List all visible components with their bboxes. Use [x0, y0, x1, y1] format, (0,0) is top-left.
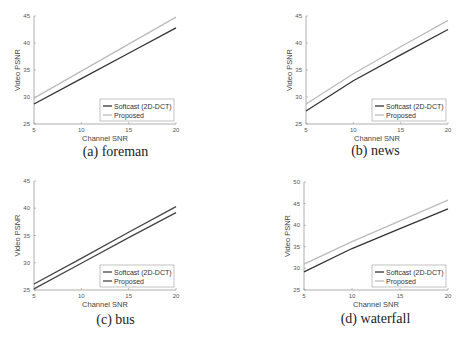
- chart-waterfall: 5101520253035404550Channel SNRVideo PSNR…: [231, 170, 462, 341]
- y-tick-label: 30: [293, 265, 300, 271]
- y-tick-label: 25: [23, 287, 30, 293]
- y-tick-label: 35: [295, 67, 302, 73]
- caption-news: (b) news: [260, 143, 462, 159]
- series-line: [34, 17, 176, 98]
- legend: Softcast (2D-DCT)Proposed: [100, 265, 174, 287]
- caption-waterfall: (d) waterfall: [260, 311, 462, 327]
- x-tick-label: 10: [350, 127, 357, 133]
- y-tick-label: 25: [293, 287, 300, 293]
- y-tick-label: 40: [23, 205, 30, 211]
- plot-bus: 51015202530354045Channel SNRVideo PSNRSo…: [0, 170, 231, 315]
- legend-label: Proposed: [114, 112, 144, 120]
- x-tick-label: 20: [173, 293, 180, 299]
- x-tick-label: 5: [32, 127, 36, 133]
- y-tick-label: 40: [23, 40, 30, 46]
- legend-label: Proposed: [386, 112, 416, 120]
- y-tick-label: 35: [293, 244, 300, 250]
- legend-label: Softcast (2D-DCT): [386, 103, 444, 111]
- x-tick-label: 20: [445, 293, 452, 299]
- y-tick-label: 25: [23, 121, 30, 127]
- y-tick-label: 45: [293, 201, 300, 207]
- y-tick-label: 30: [295, 94, 302, 100]
- x-axis-label: Channel SNR: [354, 134, 400, 143]
- legend-label: Softcast (2D-DCT): [114, 103, 172, 111]
- chart-news: 51015202530354045Channel SNRVideo PSNRSo…: [231, 0, 462, 170]
- x-tick-label: 5: [304, 127, 308, 133]
- y-tick-label: 30: [23, 260, 30, 266]
- legend-label: Proposed: [114, 278, 144, 286]
- legend-label: Softcast (2D-DCT): [386, 269, 444, 277]
- series-line: [304, 200, 448, 264]
- x-tick-label: 15: [125, 127, 132, 133]
- y-axis-label: Video PSNR: [283, 214, 292, 257]
- x-tick-label: 10: [349, 293, 356, 299]
- legend-label: Proposed: [386, 278, 416, 286]
- y-tick-label: 35: [23, 67, 30, 73]
- y-tick-label: 30: [23, 94, 30, 100]
- y-axis-label: Video PSNR: [13, 48, 22, 91]
- chart-foreman: 51015202530354045Channel SNRVideo PSNRSo…: [0, 0, 231, 170]
- y-axis-label: Video PSNR: [285, 48, 294, 91]
- x-tick-label: 5: [32, 293, 36, 299]
- legend-label: Softcast (2D-DCT): [114, 269, 172, 277]
- legend: Softcast (2D-DCT)Proposed: [100, 99, 174, 121]
- y-tick-label: 50: [293, 179, 300, 185]
- plot-news: 51015202530354045Channel SNRVideo PSNRSo…: [231, 0, 462, 145]
- plot-foreman: 51015202530354045Channel SNRVideo PSNRSo…: [0, 0, 231, 145]
- y-tick-label: 45: [23, 13, 30, 19]
- y-axis-label: Video PSNR: [13, 214, 22, 257]
- legend: Softcast (2D-DCT)Proposed: [372, 99, 446, 121]
- series-line: [34, 28, 176, 104]
- x-tick-label: 15: [397, 293, 404, 299]
- x-tick-label: 20: [445, 127, 452, 133]
- x-axis-label: Channel SNR: [82, 300, 128, 309]
- chart-bus: 51015202530354045Channel SNRVideo PSNRSo…: [0, 170, 231, 341]
- series-line: [304, 209, 448, 272]
- x-tick-label: 10: [78, 293, 85, 299]
- x-axis-label: Channel SNR: [82, 134, 128, 143]
- x-tick-label: 15: [397, 127, 404, 133]
- x-axis-label: Channel SNR: [353, 300, 399, 309]
- caption-foreman: (a) foreman: [0, 144, 231, 160]
- y-tick-label: 45: [23, 178, 30, 184]
- x-tick-label: 5: [302, 293, 306, 299]
- plot-waterfall: 5101520253035404550Channel SNRVideo PSNR…: [231, 170, 462, 315]
- x-tick-label: 10: [78, 127, 85, 133]
- x-tick-label: 15: [125, 293, 132, 299]
- y-tick-label: 45: [295, 13, 302, 19]
- x-tick-label: 20: [173, 127, 180, 133]
- y-tick-label: 40: [293, 222, 300, 228]
- series-line: [306, 20, 448, 104]
- caption-bus: (c) bus: [0, 312, 231, 328]
- legend: Softcast (2D-DCT)Proposed: [372, 265, 446, 287]
- y-tick-label: 40: [295, 40, 302, 46]
- y-tick-label: 25: [295, 121, 302, 127]
- y-tick-label: 35: [23, 233, 30, 239]
